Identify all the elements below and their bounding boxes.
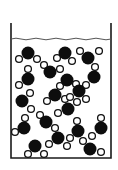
- oxygen-atom-icon: [95, 122, 108, 135]
- water-molecule: [83, 64, 101, 89]
- hydrogen-atom-icon: [52, 125, 59, 132]
- hydrogen-atom-icon: [34, 56, 41, 63]
- water-molecule: [89, 115, 108, 140]
- hydrogen-atom-icon: [28, 106, 35, 113]
- hydrogen-atom-icon: [96, 48, 103, 55]
- water-molecule: [12, 115, 31, 136]
- water-molecule: [25, 140, 48, 158]
- oxygen-atom-icon: [82, 52, 95, 65]
- oxygen-atom-icon: [72, 125, 85, 138]
- oxygen-atom-icon: [73, 85, 86, 98]
- oxygen-atom-icon: [84, 143, 97, 156]
- water-molecule: [77, 48, 103, 65]
- liquid-surface: [11, 38, 111, 40]
- hydrogen-atom-icon: [25, 151, 32, 158]
- hydrogen-atom-icon: [98, 115, 105, 122]
- oxygen-atom-icon: [22, 73, 35, 86]
- hydrogen-atom-icon: [69, 58, 76, 65]
- water-molecule: [80, 138, 105, 156]
- hydrogen-atom-icon: [22, 115, 29, 122]
- hydrogen-atom-icon: [27, 90, 34, 97]
- hydrogen-atom-icon: [83, 96, 90, 103]
- oxygen-atom-icon: [88, 71, 101, 84]
- hydrogen-atom-icon: [67, 135, 74, 142]
- hydrogen-atom-icon: [55, 110, 62, 117]
- oxygen-atom-icon: [16, 95, 29, 108]
- oxygen-atom-icon: [62, 103, 75, 116]
- hydrogen-atom-icon: [74, 99, 81, 106]
- oxygen-atom-icon: [59, 47, 72, 60]
- hydrogen-atom-icon: [67, 94, 74, 101]
- water-molecule: [16, 47, 41, 63]
- hydrogen-atom-icon: [98, 149, 105, 156]
- hydrogen-atom-icon: [16, 56, 23, 63]
- hydrogen-atom-icon: [74, 118, 81, 125]
- hydrogen-atom-icon: [46, 141, 53, 148]
- water-molecules: [12, 47, 108, 158]
- oxygen-atom-icon: [18, 122, 31, 135]
- oxygen-atom-icon: [29, 140, 42, 153]
- hydrogen-atom-icon: [41, 151, 48, 158]
- hydrogen-atom-icon: [77, 48, 84, 55]
- hydrogen-atom-icon: [12, 129, 19, 136]
- water-molecule: [44, 89, 69, 105]
- water-molecule: [54, 47, 76, 65]
- hydrogen-atom-icon: [44, 98, 51, 105]
- hydrogen-atom-icon: [16, 82, 23, 89]
- water-molecule: [41, 62, 64, 79]
- water-molecule: [16, 90, 35, 113]
- oxygen-atom-icon: [49, 89, 62, 102]
- oxygen-atom-icon: [52, 132, 65, 145]
- water-molecule: [16, 66, 35, 89]
- hydrogen-atom-icon: [89, 133, 96, 140]
- oxygen-atom-icon: [61, 74, 74, 87]
- water-molecule: [46, 132, 71, 150]
- oxygen-atom-icon: [40, 116, 53, 129]
- oxygen-atom-icon: [22, 47, 35, 60]
- hydrogen-atom-icon: [80, 138, 87, 145]
- beaker-diagram: [0, 0, 118, 170]
- hydrogen-atom-icon: [64, 143, 71, 150]
- hydrogen-atom-icon: [57, 66, 64, 73]
- oxygen-atom-icon: [44, 66, 57, 79]
- hydrogen-atom-icon: [25, 66, 32, 73]
- hydrogen-atom-icon: [92, 64, 99, 71]
